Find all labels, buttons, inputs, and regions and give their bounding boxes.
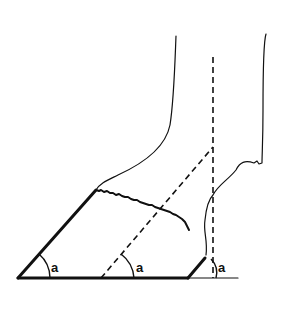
heel-angle-label: a	[218, 260, 226, 275]
toe-angle-label: a	[51, 260, 59, 275]
hoof-diagram: a a a	[0, 0, 282, 314]
hoof-heel-wall	[188, 258, 205, 278]
pastern-front-outline	[96, 36, 176, 190]
axis-angle-label: a	[136, 260, 144, 275]
heel-angle-arc	[211, 259, 217, 278]
toe-angle-arc	[39, 254, 50, 278]
pastern-axis-dashed-line	[101, 147, 213, 278]
coronary-band	[96, 190, 189, 230]
axis-angle-arc	[121, 254, 134, 278]
